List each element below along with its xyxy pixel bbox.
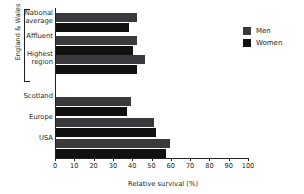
category-label-scotland: Scotland: [1, 93, 53, 101]
category-label-column: National average Affluent Highest region…: [0, 0, 53, 160]
x-tick-60: [171, 158, 172, 161]
category-label-europe: Europe: [1, 114, 53, 122]
x-tick-30: [113, 158, 114, 161]
legend-item-women: Women: [243, 39, 282, 47]
bar-affluent-women: [56, 46, 133, 55]
category-label-usa: USA: [1, 135, 53, 143]
bar-affluent-men: [56, 36, 137, 45]
bar-highest-region-women: [56, 65, 137, 74]
plot-area: [55, 8, 248, 158]
category-label-national-average: National average: [1, 10, 53, 25]
legend-label-men: Men: [256, 27, 271, 35]
x-tick-label-0: 0: [47, 162, 63, 170]
x-tick-label-90: 90: [221, 162, 237, 170]
x-tick-70: [190, 158, 191, 161]
category-label-line2: average: [25, 17, 53, 25]
category-label-line1: Affluent: [26, 32, 53, 40]
legend: Men Women: [243, 27, 282, 51]
x-tick-label-70: 70: [182, 162, 198, 170]
x-tick-20: [94, 158, 95, 161]
x-tick-label-60: 60: [163, 162, 179, 170]
category-label-affluent: Affluent: [1, 33, 53, 41]
bar-europe-women: [56, 128, 156, 137]
bar-chart: England & Wales National average Affluen…: [0, 0, 304, 194]
legend-label-women: Women: [256, 39, 282, 47]
x-tick-0: [55, 158, 56, 161]
x-tick-label-100: 100: [240, 162, 256, 170]
x-tick-80: [209, 158, 210, 161]
bar-highest-region-men: [56, 55, 145, 64]
bar-national-average-men: [56, 13, 137, 22]
category-label-line1: Scotland: [23, 92, 53, 100]
bar-scotland-men: [56, 97, 131, 106]
bar-national-average-women: [56, 23, 129, 32]
legend-swatch-women-icon: [243, 39, 251, 47]
x-tick-label-40: 40: [124, 162, 140, 170]
category-label-line2: region: [32, 58, 54, 66]
x-tick-90: [229, 158, 230, 161]
bar-scotland-women: [56, 107, 127, 116]
legend-item-men: Men: [243, 27, 282, 35]
category-label-highest-region: Highest region: [1, 51, 53, 66]
x-axis-title: Relative survival (%): [128, 180, 198, 188]
x-tick-label-80: 80: [201, 162, 217, 170]
x-tick-100: [248, 158, 249, 161]
x-tick-10: [74, 158, 75, 161]
bar-usa-men: [56, 139, 170, 148]
x-tick-40: [132, 158, 133, 161]
category-label-line1: USA: [39, 134, 53, 142]
category-label-line1: Europe: [29, 113, 53, 121]
x-tick-label-20: 20: [86, 162, 102, 170]
x-tick-50: [152, 158, 153, 161]
x-tick-label-10: 10: [66, 162, 82, 170]
x-tick-label-30: 30: [105, 162, 121, 170]
x-tick-label-50: 50: [144, 162, 160, 170]
legend-swatch-men-icon: [243, 27, 251, 35]
bar-usa-women: [56, 149, 166, 158]
bar-europe-men: [56, 118, 154, 127]
